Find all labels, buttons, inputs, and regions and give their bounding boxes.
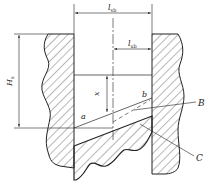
label-a: a [81, 112, 86, 121]
label-lxb: lxb [128, 39, 137, 49]
label-b: b [142, 90, 147, 99]
cross-section-diagram: lsb lxb Hs x a b B C [0, 0, 209, 188]
label-x: x [92, 91, 101, 96]
label-B: B [197, 98, 205, 108]
left-wall-section [42, 34, 74, 168]
label-C: C [196, 153, 203, 163]
label-lsb: lsb [108, 3, 116, 13]
bottom-block-section [74, 116, 152, 180]
label-hs: Hs [5, 76, 15, 87]
